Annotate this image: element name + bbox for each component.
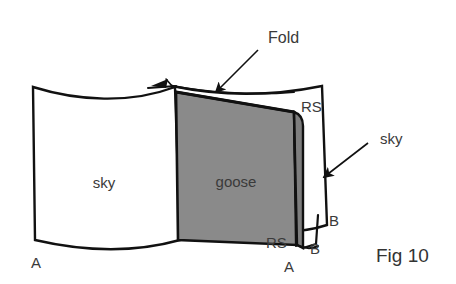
figure-caption: Fig 10 xyxy=(376,245,429,266)
label-fold: Fold xyxy=(268,29,299,46)
label-corner-a-left: A xyxy=(31,254,41,271)
left-sky-panel xyxy=(33,87,180,249)
label-corner-b-upper: B xyxy=(329,212,339,229)
goose-panel xyxy=(176,92,303,248)
label-goose: goose xyxy=(216,173,257,190)
label-corner-b-lower: B xyxy=(310,240,320,257)
label-sky-right: sky xyxy=(380,130,403,147)
fold-flag-marker xyxy=(148,79,176,88)
label-rs-top-right: RS xyxy=(301,98,322,115)
figure-drawing: Fold sky goose sky RS RS A A B B Fig 10 xyxy=(0,0,456,284)
fold-leader-line xyxy=(216,50,258,92)
label-rs-bottom: RS xyxy=(266,234,287,251)
sky-right-leader-line xyxy=(324,143,368,177)
figure-container: Fold sky goose sky RS RS A A B B Fig 10 xyxy=(0,0,456,284)
label-corner-a-bottom: A xyxy=(284,258,294,275)
label-sky-left: sky xyxy=(93,174,116,191)
